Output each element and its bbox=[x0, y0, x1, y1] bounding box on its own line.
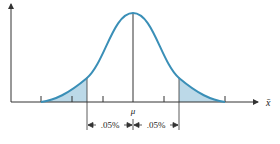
left-interval-label: .05% bbox=[101, 120, 120, 130]
normal-distribution-diagram: μ .05% .05% x̄ bbox=[0, 0, 280, 144]
mu-label: μ bbox=[130, 106, 136, 116]
right-interval-label: .05% bbox=[147, 120, 166, 130]
left-tail-shade bbox=[41, 78, 87, 102]
right-tail-shade bbox=[179, 78, 225, 102]
x-axis-label: x̄ bbox=[265, 97, 271, 108]
